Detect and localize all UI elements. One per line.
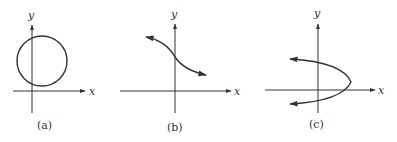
circle-curve <box>17 36 67 86</box>
panel-a: y x (a) <box>13 9 96 132</box>
y-axis-label: y <box>27 9 35 22</box>
panel-caption: (a) <box>37 119 52 132</box>
y-axis-label: y <box>170 8 178 21</box>
x-axis-label: x <box>234 85 241 98</box>
parabola-curve <box>290 59 351 104</box>
panel-b: y x (b) <box>120 8 241 134</box>
figure-canvas: y x (a) y x (b) y x (c) <box>0 0 397 142</box>
y-axis-label: y <box>313 7 321 20</box>
panel-caption: (b) <box>167 121 183 134</box>
s-curve <box>146 37 206 75</box>
x-axis-label: x <box>89 85 96 98</box>
x-axis-label: x <box>378 84 385 97</box>
panel-c: y x (c) <box>265 7 385 131</box>
panel-caption: (c) <box>309 118 324 131</box>
